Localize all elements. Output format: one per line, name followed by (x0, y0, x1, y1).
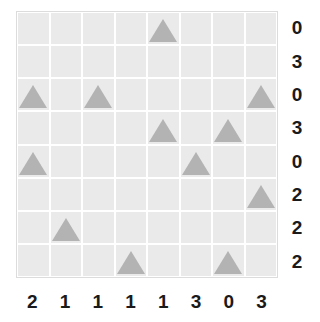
triangle-icon (19, 152, 47, 175)
grid-cell[interactable] (83, 112, 114, 143)
triangle-icon (52, 218, 80, 241)
grid-cell[interactable] (83, 13, 114, 44)
grid-cell[interactable] (148, 112, 179, 143)
column-clue-label: 1 (114, 286, 147, 316)
column-clue-label: 3 (245, 286, 278, 316)
grid-cell[interactable] (148, 13, 179, 44)
grid-cell[interactable] (116, 46, 147, 77)
grid-cell[interactable] (51, 179, 82, 210)
grid-cell[interactable] (83, 146, 114, 177)
grid-cell[interactable] (116, 212, 147, 243)
grid-cell[interactable] (148, 212, 179, 243)
puzzle-grid[interactable] (16, 11, 278, 278)
triangle-icon (182, 152, 210, 175)
column-clue-label: 1 (49, 286, 82, 316)
grid-cell[interactable] (83, 46, 114, 77)
grid-cell[interactable] (116, 112, 147, 143)
grid-cell[interactable] (246, 245, 277, 276)
grid-cell[interactable] (18, 179, 49, 210)
grid-cell[interactable] (148, 179, 179, 210)
row-clue-label: 2 (282, 211, 312, 244)
grid-cell[interactable] (18, 112, 49, 143)
row-clue-column: 03030222 (282, 11, 312, 278)
grid-cell[interactable] (181, 79, 212, 110)
grid-cell[interactable] (246, 212, 277, 243)
grid-cell[interactable] (246, 13, 277, 44)
grid-cell[interactable] (213, 46, 244, 77)
grid-cell[interactable] (116, 245, 147, 276)
row-clue-label: 2 (282, 178, 312, 211)
column-clue-label: 1 (147, 286, 180, 316)
column-clue-label: 2 (16, 286, 49, 316)
grid-cell[interactable] (116, 179, 147, 210)
puzzle-container: 03030222 21111303 (0, 0, 320, 322)
grid-cell[interactable] (51, 13, 82, 44)
grid-cell[interactable] (51, 245, 82, 276)
grid-cell[interactable] (213, 13, 244, 44)
grid-cell[interactable] (18, 212, 49, 243)
grid-cell[interactable] (18, 46, 49, 77)
grid-cell[interactable] (51, 146, 82, 177)
grid-cell[interactable] (246, 146, 277, 177)
triangle-icon (19, 85, 47, 108)
grid-cell[interactable] (148, 46, 179, 77)
grid-cell[interactable] (181, 46, 212, 77)
row-clue-label: 2 (282, 245, 312, 278)
triangle-icon (149, 19, 177, 42)
row-clue-label: 0 (282, 78, 312, 111)
triangle-icon (247, 85, 275, 108)
grid-cell[interactable] (18, 13, 49, 44)
grid-cell[interactable] (246, 46, 277, 77)
grid-cell[interactable] (51, 79, 82, 110)
column-clue-row: 21111303 (16, 286, 278, 316)
grid-cell[interactable] (213, 212, 244, 243)
grid-cell[interactable] (51, 46, 82, 77)
grid-cell[interactable] (213, 179, 244, 210)
grid-cell[interactable] (83, 212, 114, 243)
grid-cell[interactable] (116, 79, 147, 110)
column-clue-label: 0 (213, 286, 246, 316)
triangle-icon (247, 185, 275, 208)
grid-cell[interactable] (51, 212, 82, 243)
grid-cell[interactable] (83, 245, 114, 276)
grid-cell[interactable] (246, 79, 277, 110)
grid-cell[interactable] (148, 245, 179, 276)
triangle-icon (214, 119, 242, 142)
row-clue-label: 0 (282, 145, 312, 178)
grid-cell[interactable] (181, 13, 212, 44)
row-clue-label: 3 (282, 111, 312, 144)
grid-cell[interactable] (213, 79, 244, 110)
grid-cell[interactable] (246, 179, 277, 210)
grid-cell[interactable] (213, 146, 244, 177)
row-clue-label: 3 (282, 44, 312, 77)
grid-cell[interactable] (83, 179, 114, 210)
grid-cell[interactable] (148, 146, 179, 177)
grid-cell[interactable] (51, 112, 82, 143)
row-clue-label: 0 (282, 11, 312, 44)
column-clue-label: 3 (180, 286, 213, 316)
triangle-icon (214, 251, 242, 274)
grid-cell[interactable] (18, 245, 49, 276)
grid-cell[interactable] (181, 212, 212, 243)
grid-cell[interactable] (246, 112, 277, 143)
grid-cell[interactable] (116, 13, 147, 44)
grid-cell[interactable] (213, 245, 244, 276)
triangle-icon (117, 251, 145, 274)
triangle-icon (149, 119, 177, 142)
grid-cell[interactable] (213, 112, 244, 143)
triangle-icon (84, 85, 112, 108)
grid-cell[interactable] (181, 179, 212, 210)
grid-cell[interactable] (116, 146, 147, 177)
grid-cell[interactable] (18, 79, 49, 110)
grid-cell[interactable] (83, 79, 114, 110)
grid-cell[interactable] (181, 146, 212, 177)
grid-cell[interactable] (148, 79, 179, 110)
column-clue-label: 1 (82, 286, 115, 316)
grid-cell[interactable] (18, 146, 49, 177)
grid-cell[interactable] (181, 112, 212, 143)
grid-cell[interactable] (181, 245, 212, 276)
